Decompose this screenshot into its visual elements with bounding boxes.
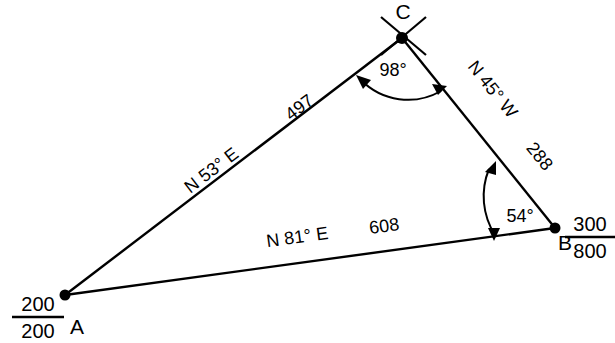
side-label-ab-distance: 608 — [368, 214, 400, 238]
side-label-ab-bearing: N 81° E — [265, 223, 329, 251]
vertex-b-coord-numerator: 300 — [573, 213, 606, 235]
side-label-ac-distance: 497 — [281, 90, 317, 124]
vertex-dot-c — [396, 32, 408, 44]
survey-diagram: 98° 54° N 53° E 497 N 45° W 288 N 81° E … — [0, 0, 615, 343]
angle-label-c: 98° — [379, 60, 406, 80]
vertex-dot-a — [60, 290, 71, 301]
angle-arc-b-arrowhead-bottom — [488, 228, 500, 241]
vertex-label-b: B — [558, 231, 572, 254]
vertex-b-coord-denominator: 800 — [573, 240, 606, 262]
vertex-label-a: A — [70, 315, 84, 338]
angle-arc-c — [361, 80, 441, 100]
angle-label-b: 54° — [506, 206, 533, 226]
side-label-cb-distance: 288 — [522, 138, 556, 174]
vertex-label-c: C — [395, 0, 410, 23]
survey-diagram-canvas: 98° 54° N 53° E 497 N 45° W 288 N 81° E … — [0, 0, 615, 343]
angle-arc-b — [484, 169, 495, 235]
vertex-a-coord-numerator: 200 — [21, 293, 54, 315]
side-label-cb-bearing: N 45° W — [464, 57, 522, 122]
side-label-ac-bearing: N 53° E — [181, 143, 243, 197]
vertex-a-coord-denominator: 200 — [21, 320, 54, 342]
